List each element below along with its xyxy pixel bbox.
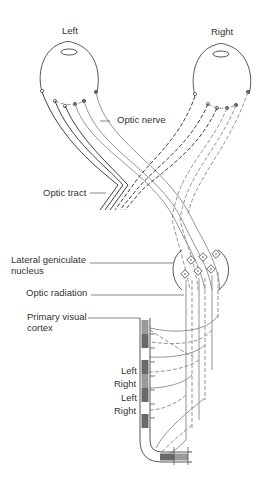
right-eye-label: Right [211,26,234,37]
cortex-column-left-1: Left [121,365,137,376]
cortex-column-right-1: Right [114,378,137,389]
lgn-label-line2: nucleus [11,265,44,276]
cortex-label-line1: Primary visual [27,311,87,322]
lgn-label-line1: Lateral geniculate [11,254,86,265]
radiation-to-cortex [150,315,218,455]
right-eye [193,44,251,110]
optic-radiation-label: Optic radiation [26,287,87,298]
visual-pathway-diagram: Left Right [0,0,272,489]
left-eye [40,42,98,108]
lateral-geniculate-nucleus [173,250,229,290]
cortex-column-right-2: Right [114,405,137,416]
optic-tract-label: Optic tract [43,187,87,198]
optic-nerve-label: Optic nerve [117,114,166,125]
cortex-column-left-2: Left [121,392,137,403]
left-eye-label: Left [62,25,78,36]
cortex-label-line2: cortex [27,322,53,333]
